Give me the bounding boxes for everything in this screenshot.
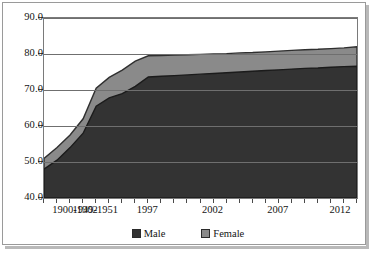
x-tick-label: 1949-1951: [72, 204, 118, 215]
gridline: [44, 90, 357, 91]
x-tick-mark: [200, 199, 201, 203]
x-tick-mark: [134, 199, 135, 203]
chart-frame: 90.080.070.060.050.040.0 1900-19021949-1…: [2, 2, 366, 245]
x-tick-mark: [278, 199, 279, 203]
x-tick-mark: [121, 199, 122, 203]
y-tick-label: 90.0: [9, 12, 43, 23]
x-tick-mark: [330, 199, 331, 203]
x-tick-mark: [213, 199, 214, 203]
figure-shadow-bottom: [5, 246, 369, 249]
x-tick-mark: [317, 199, 318, 203]
legend-item-male[interactable]: Male: [132, 228, 166, 239]
y-tick-label: 80.0: [9, 48, 43, 59]
y-tick-label: 70.0: [9, 84, 43, 95]
x-tick-label: 2007: [267, 204, 288, 215]
legend-label-female: Female: [213, 228, 244, 239]
x-axis: 1900-19021949-19511997200220072012: [43, 199, 359, 213]
gridline: [44, 126, 357, 127]
x-tick-label: 2002: [202, 204, 223, 215]
x-tick-mark: [108, 199, 109, 203]
x-tick-mark: [226, 199, 227, 203]
gridline: [44, 54, 357, 55]
gridline: [44, 18, 357, 19]
x-tick-mark: [252, 199, 253, 203]
area-series-male: [44, 66, 357, 198]
x-tick-mark: [173, 199, 174, 203]
legend-item-female[interactable]: Female: [201, 228, 244, 239]
gridline: [44, 162, 357, 163]
y-tick-label: 50.0: [9, 156, 43, 167]
chart-legend: Male Female: [3, 225, 370, 241]
x-tick-mark: [82, 199, 83, 203]
plot-area: [43, 17, 358, 199]
chart-figure: 90.080.070.060.050.040.0 1900-19021949-1…: [0, 0, 370, 253]
x-tick-mark: [69, 199, 70, 203]
y-axis: 90.080.070.060.050.040.0: [3, 3, 43, 199]
x-tick-mark: [147, 199, 148, 203]
legend-swatch-female: [201, 229, 210, 238]
x-tick-mark: [265, 199, 266, 203]
x-tick-mark: [356, 199, 357, 203]
area-series-group: [44, 18, 357, 198]
y-tick-label: 40.0: [9, 192, 43, 203]
x-tick-mark: [56, 199, 57, 203]
x-tick-mark: [95, 199, 96, 203]
x-tick-mark: [343, 199, 344, 203]
x-tick-mark: [239, 199, 240, 203]
figure-shadow-right: [366, 5, 369, 246]
x-tick-mark: [43, 199, 44, 203]
x-tick-mark: [304, 199, 305, 203]
legend-label-male: Male: [144, 228, 166, 239]
legend-swatch-male: [132, 229, 141, 238]
x-tick-label: 1997: [137, 204, 158, 215]
x-tick-mark: [160, 199, 161, 203]
x-tick-mark: [291, 199, 292, 203]
x-tick-label: 2012: [330, 204, 351, 215]
y-tick-label: 60.0: [9, 120, 43, 131]
x-tick-mark: [186, 199, 187, 203]
